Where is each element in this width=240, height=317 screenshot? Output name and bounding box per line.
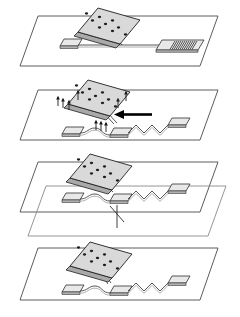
schematic-canvas	[0, 0, 240, 317]
process-schematic-figure	[0, 0, 240, 317]
panel-3	[20, 154, 226, 236]
receiving-plane	[28, 186, 226, 236]
striped-stamp	[156, 40, 204, 52]
panel-1	[20, 8, 218, 66]
panel-2	[20, 80, 218, 140]
panel-4	[20, 242, 218, 300]
